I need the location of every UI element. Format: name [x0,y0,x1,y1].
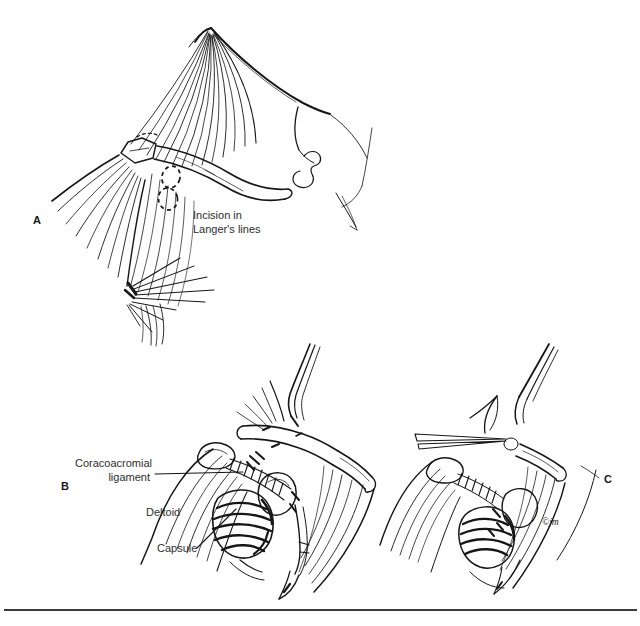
panel-a-letter: A [33,214,41,226]
panel-b-illustration: B Coracoacromial ligament Deltoid Capsul… [61,344,375,599]
retractor-c [515,344,558,424]
deltoid-flap-right-b [279,466,374,599]
panel-b-letter: B [61,480,69,492]
coracoacromial-label-line2: ligament [108,471,150,483]
capsule-c [459,507,515,568]
wound-bottom-c [470,560,520,594]
artist-signature: ©jm [542,517,559,527]
sternoclavicular-joint [293,150,321,188]
scissors [415,434,518,450]
capsule-leader-line [197,509,236,548]
flap-leaf-c [470,396,498,433]
incision-label-line1: Incision in [193,209,242,221]
panel-c-illustration: C ©jm [380,344,612,594]
deltoid-flap-left-c [380,462,460,572]
clavicle [154,146,292,201]
clavicle-c [516,444,566,481]
deltoid-muscle [52,155,194,306]
coracoacromial-ligament-c [454,473,504,509]
incision-dashed-line [157,164,183,211]
panel-c-letter: C [604,473,612,485]
medical-figure-page: A Incision in Langer's lines [0,0,640,626]
coracoacromial-label-line1: Coracoacromial [75,457,152,469]
axilla-fiber-starburst [125,258,214,346]
panel-a-illustration: A Incision in Langer's lines [33,28,372,346]
retractor [289,344,320,426]
upper-fiber-fan [237,381,284,430]
deltoid-label: Deltoid [146,506,180,518]
coracoid-process-c [427,458,464,483]
trapezius-muscle [131,28,256,166]
shoulder-surgery-illustration: A Incision in Langer's lines [0,0,640,626]
capsule-label: Capsule [157,542,197,554]
incision-label-line2: Langer's lines [193,223,261,235]
capsule-b [213,490,274,580]
